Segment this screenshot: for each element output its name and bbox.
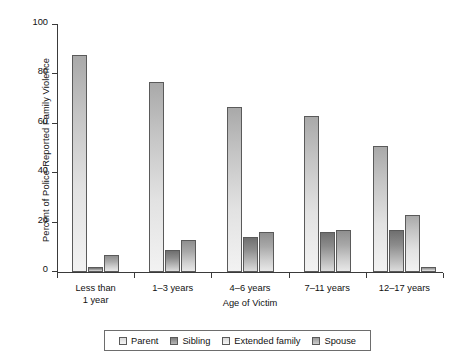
legend-item-sibling: Sibling: [170, 336, 210, 346]
legend-item-label: Spouse: [324, 336, 356, 346]
y-axis-line: [57, 25, 58, 273]
x-axis-line: [57, 272, 443, 273]
x-axis-tick: [134, 273, 135, 278]
bar-parent: [149, 82, 164, 272]
y-axis-tick-label: 20: [38, 215, 48, 225]
bar-parent: [72, 55, 87, 272]
y-axis-tick: 40: [52, 172, 58, 173]
legend-swatch-icon: [312, 337, 320, 345]
bar-spouse: [259, 232, 274, 272]
bar-sibling: [88, 267, 103, 272]
category-label-line: Less than: [57, 283, 134, 295]
bar-spouse: [104, 255, 119, 272]
x-axis-tick: [366, 273, 367, 278]
bar-spouse: [421, 267, 436, 272]
legend-item-label: Parent: [131, 336, 158, 346]
y-axis-tick-label: 60: [38, 116, 48, 126]
y-axis-tick-label: 100: [32, 17, 48, 27]
legend-item-extended: Extended family: [222, 336, 300, 346]
plot-area: 020406080100 Less than1 year1–3 years4–6…: [57, 25, 443, 272]
x-axis-category-label: 12–17 years: [366, 283, 443, 295]
bar-chart: Percent of Police-Reported Family Violen…: [0, 0, 454, 362]
x-axis-title: Age of Victim: [57, 298, 443, 308]
x-axis-category-label: 7–11 years: [289, 283, 366, 295]
y-axis-title: Percent of Police-Reported Family Violen…: [41, 25, 51, 275]
y-axis-tick: 80: [52, 73, 58, 74]
x-axis-tick: [57, 273, 58, 278]
y-axis-tick-label: 0: [43, 264, 48, 274]
category-label-line: 7–11 years: [289, 283, 366, 295]
legend-item-label: Extended family: [234, 336, 300, 346]
y-axis-tick-label: 80: [38, 66, 48, 76]
x-axis-tick: [289, 273, 290, 278]
legend-swatch-icon: [119, 337, 127, 345]
y-axis-tick: 0: [52, 271, 58, 272]
legend-item-parent: Parent: [119, 336, 158, 346]
y-axis-tick: 60: [52, 123, 58, 124]
x-axis-tick: [443, 273, 444, 278]
category-label-line: 12–17 years: [366, 283, 443, 295]
y-axis-tick: 100: [52, 24, 58, 25]
legend-swatch-icon: [222, 337, 230, 345]
bar-sibling: [243, 237, 258, 272]
y-axis-tick: 20: [52, 222, 58, 223]
bar-sibling: [320, 232, 335, 272]
x-axis-tick: [211, 273, 212, 278]
bar-spouse: [181, 240, 196, 272]
category-label-line: 4–6 years: [211, 283, 288, 295]
bar-extended-family: [405, 215, 420, 272]
legend-swatch-icon: [170, 337, 178, 345]
chart-legend: ParentSiblingExtended familySpouse: [104, 330, 371, 351]
x-axis-category-label: 4–6 years: [211, 283, 288, 295]
y-axis-tick-label: 40: [38, 165, 48, 175]
bar-sibling: [389, 230, 404, 272]
bar-sibling: [165, 250, 180, 272]
bar-parent: [304, 116, 319, 272]
bar-parent: [227, 107, 242, 272]
legend-item-label: Sibling: [182, 336, 210, 346]
bar-parent: [373, 146, 388, 272]
bar-spouse: [336, 230, 351, 272]
category-label-line: 1–3 years: [134, 283, 211, 295]
x-axis-category-label: 1–3 years: [134, 283, 211, 295]
legend-item-spouse: Spouse: [312, 336, 356, 346]
